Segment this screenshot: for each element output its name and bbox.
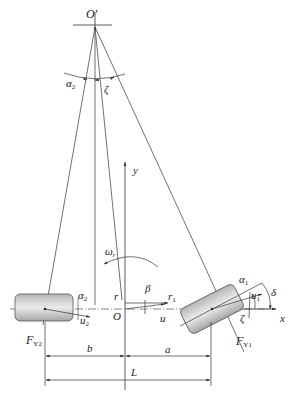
label-fy1: FY1 <box>236 335 252 349</box>
label-origin: O <box>113 311 121 322</box>
label-delta: δ <box>271 287 276 298</box>
label-a: a <box>165 344 171 355</box>
label-y-axis: y <box>133 165 138 176</box>
label-b: b <box>87 343 93 354</box>
label-u2: u2 <box>80 315 89 328</box>
label-yaw-rate: ωr <box>105 246 116 259</box>
label-fy2: FY2 <box>26 334 42 348</box>
label-zeta-top: ζ <box>104 84 108 95</box>
label-alpha1: α1 <box>239 274 248 287</box>
vehicle-model-diagram <box>0 0 299 401</box>
label-r1: r1 <box>168 291 176 304</box>
label-r: r <box>114 291 118 302</box>
label-u1: u1 <box>251 290 260 303</box>
label-alpha2: α2 <box>78 290 87 303</box>
label-u: u <box>160 313 166 324</box>
label-alpha2-top: α2 <box>66 78 75 91</box>
label-zeta-front: ζ <box>240 313 244 324</box>
label-x-axis: x <box>280 313 285 324</box>
dimension-lines <box>45 322 211 386</box>
label-beta: β <box>145 283 150 294</box>
label-instant-center: O' <box>86 8 97 20</box>
label-wheelbase: L <box>131 367 137 378</box>
